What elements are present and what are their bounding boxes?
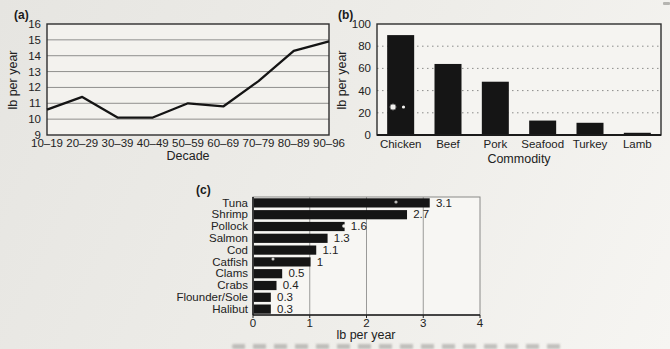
scan-artifact-dot [390,104,396,110]
x-tick-label: 30–39 [102,137,134,149]
y-tick-label: 12 [28,81,41,93]
bar-seafood [529,121,556,135]
scan-artifact-dot [272,258,275,261]
bar-clams [254,269,282,278]
scan-artifact-dot [342,224,346,228]
figure-page: (a) (b) (c) lb per year Decade lb per ye… [0,0,670,349]
chart-c-x-axis-title: lb per year [336,328,395,342]
y-tick-label: 15 [28,34,41,46]
x-tick-label: 1 [307,317,313,329]
y-category-label: Flounder/Sole [176,291,248,303]
bar-value-label: 2.7 [413,208,429,220]
x-tick-label: 60–69 [207,137,239,149]
y-category-label: Tuna [222,197,248,209]
bar-salmon [254,234,328,243]
y-category-label: Halibut [212,303,249,315]
scan-speck [663,2,670,5]
x-category-label: Beef [436,138,460,150]
bar-value-label: 0.4 [283,279,300,291]
x-tick-label: 70–79 [243,137,275,149]
bar-value-label: 1.3 [334,232,350,244]
x-tick-label: 80–89 [278,137,310,149]
panel-label-a: (a) [14,8,29,22]
x-category-label: Seafood [521,138,564,150]
bar-beef [435,64,462,135]
figure-svg: (a) (b) (c) lb per year Decade lb per ye… [0,0,670,349]
scan-artifact-dot [402,105,405,108]
chart-b-y-axis-title: lb per year [335,50,349,109]
chart-c-plot: Tuna3.1Shrimp2.7Pollock1.6Salmon1.3Cod1.… [176,197,483,329]
x-tick-label: 20–29 [66,137,98,149]
x-tick-label: 90–96 [313,137,345,149]
y-tick-label: 14 [28,50,41,62]
cropped-caption-fragment [232,344,562,349]
panel-label-c: (c) [196,183,211,197]
y-tick-label: 10 [28,113,41,125]
x-category-label: Chicken [380,138,422,150]
x-tick-label: 40–49 [137,137,169,149]
x-tick-label: 3 [420,317,426,329]
y-category-label: Clams [215,267,248,279]
chart-b-plot: ChickenBeefPorkSeafoodTurkeyLamb02040608… [352,18,661,150]
x-tick-label: 50–59 [172,137,204,149]
chart-b-plot-bg [377,24,661,135]
y-category-label: Salmon [209,232,248,244]
y-category-label: Cod [227,244,248,256]
bar-value-label: 3.1 [436,197,452,209]
bar-value-label: 0.3 [277,303,293,315]
chart-b-x-axis-title: Commodity [487,152,551,166]
x-category-label: Lamb [623,138,652,150]
bar-shrimp [254,210,407,219]
y-category-label: Shrimp [212,208,248,220]
bar-pork [482,82,509,135]
bar-cod [254,246,316,255]
chart-a-plot-bg [47,24,329,135]
bar-value-label: 1.1 [322,244,338,256]
bar-catfish [254,257,311,266]
x-tick-label: 4 [477,317,484,329]
bar-crabs [254,281,277,290]
bar-value-label: 1.6 [351,220,367,232]
bar-pollock [254,222,345,231]
bar-flounder-sole [254,293,271,302]
y-tick-label: 100 [352,18,371,30]
y-category-label: Catfish [212,256,248,268]
x-category-label: Turkey [573,138,608,150]
y-tick-label: 20 [358,107,371,119]
x-tick-label: 0 [250,317,256,329]
y-tick-label: 16 [28,18,41,30]
y-tick-label: 40 [358,85,371,97]
y-category-label: Crabs [217,279,248,291]
y-tick-label: 60 [358,62,371,74]
bar-halibut [254,305,271,314]
bar-value-label: 1 [317,256,323,268]
x-category-label: Pork [484,138,508,150]
chart-a-y-axis-title: lb per year [6,50,20,109]
x-tick-label: 10–19 [31,137,63,149]
chart-a-x-axis-title: Decade [166,149,209,163]
x-tick-label: 2 [363,317,369,329]
y-tick-label: 80 [358,40,371,52]
scan-artifact-dot [394,200,397,203]
bar-value-label: 0.3 [277,291,293,303]
bar-tuna [254,198,430,207]
y-tick-label: 11 [29,97,41,109]
bar-chicken [387,35,414,135]
bar-turkey [577,123,604,135]
y-category-label: Pollock [211,220,248,232]
y-tick-label: 0 [365,129,371,141]
chart-a-plot: 91011121314151610–1920–2930–3940–4950–59… [28,18,345,149]
y-tick-label: 13 [28,66,41,78]
bar-value-label: 0.5 [288,267,304,279]
